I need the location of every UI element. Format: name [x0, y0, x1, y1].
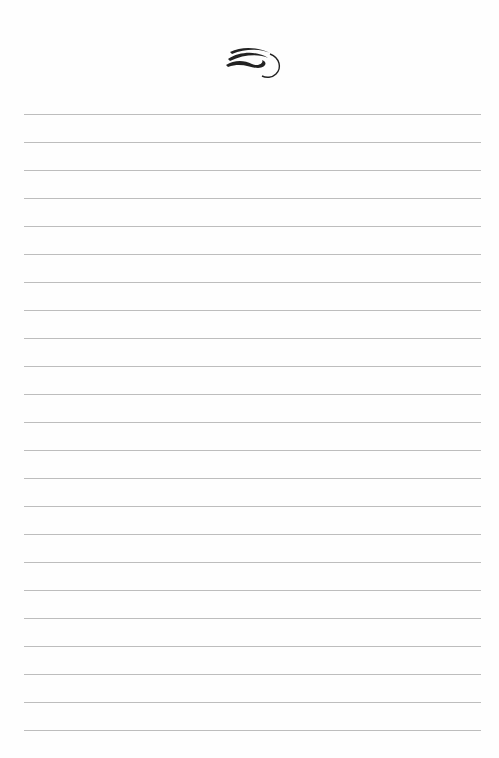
ruled-line [24, 366, 481, 367]
ruled-line [24, 450, 481, 451]
ruled-line [24, 422, 481, 423]
ruled-line [24, 170, 481, 171]
ruled-line [24, 702, 481, 703]
ruled-line [24, 394, 481, 395]
flourish-icon [224, 46, 284, 80]
ruled-line [24, 618, 481, 619]
notepaper [0, 0, 499, 758]
ruled-line [24, 310, 481, 311]
ruled-line [24, 674, 481, 675]
ruled-line [24, 338, 481, 339]
ruled-line [24, 142, 481, 143]
ruled-line [24, 730, 481, 731]
ruled-line [24, 562, 481, 563]
ruled-line [24, 226, 481, 227]
ruled-line [24, 198, 481, 199]
ruled-line [24, 282, 481, 283]
ruled-line [24, 506, 481, 507]
ruled-line [24, 114, 481, 115]
ruled-line [24, 534, 481, 535]
ruled-line [24, 590, 481, 591]
ruled-line [24, 478, 481, 479]
ruled-line [24, 254, 481, 255]
ruled-line [24, 646, 481, 647]
